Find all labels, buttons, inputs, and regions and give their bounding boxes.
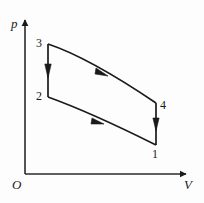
origin-label: O — [12, 178, 21, 191]
pv-diagram-figure: p V O 3 2 4 1 — [0, 0, 204, 203]
pv-diagram-canvas — [0, 0, 204, 203]
state-point-label-3: 3 — [36, 37, 42, 49]
process-3-to-2-arrow-icon — [45, 64, 51, 78]
state-point-label-1: 1 — [152, 148, 158, 160]
process-2-to-1-curve — [48, 97, 156, 145]
process-4-to-1-arrow-icon — [153, 118, 159, 131]
state-point-label-2: 2 — [36, 90, 42, 102]
volume-axis-label: V — [184, 178, 192, 191]
state-point-label-4: 4 — [160, 99, 166, 111]
pressure-axis-label: p — [11, 17, 18, 30]
